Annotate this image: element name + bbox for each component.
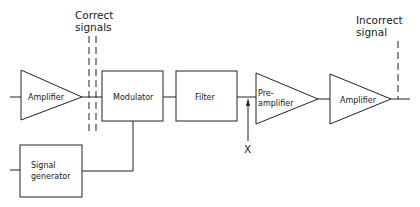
- preamplifier-block: Pre- amplifier: [256, 73, 318, 124]
- correct-signals-label-line1: Correct: [75, 9, 113, 21]
- signal-generator-label-line1: Signal: [31, 161, 56, 170]
- signal-generator-block: Signal generator: [20, 145, 82, 197]
- wire-siggen-modulator: [82, 121, 133, 171]
- modulator-label: Modulator: [113, 93, 154, 102]
- modulator-block: Modulator: [102, 71, 163, 121]
- filter-block: Filter: [176, 71, 237, 121]
- signal-generator-box: [20, 145, 82, 197]
- test-point-x-label: X: [244, 143, 251, 155]
- preamplifier-label-line1: Pre-: [258, 89, 274, 98]
- incorrect-signal-label-line1: Incorrect: [356, 14, 403, 26]
- filter-label: Filter: [195, 93, 216, 102]
- correct-signals-label-line2: signals: [75, 21, 112, 33]
- amplifier-1-label: Amplifier: [28, 93, 65, 102]
- preamplifier-label-line2: amplifier: [258, 99, 294, 108]
- amplifier-2-label: Amplifier: [340, 96, 377, 105]
- test-point-x-arrow-head-icon: [246, 98, 250, 106]
- block-diagram: Correct signals Incorrect signal Amplifi…: [0, 0, 420, 207]
- amplifier-2-block: Amplifier: [330, 74, 391, 124]
- amplifier-1-block: Amplifier: [21, 70, 82, 120]
- signal-generator-label-line2: generator: [31, 172, 71, 181]
- incorrect-signal-label-line2: signal: [356, 26, 387, 38]
